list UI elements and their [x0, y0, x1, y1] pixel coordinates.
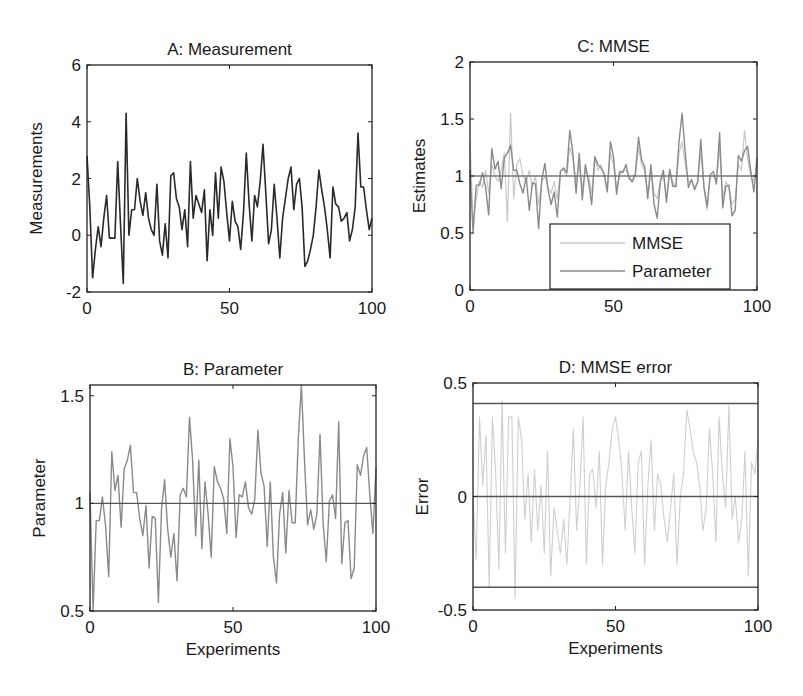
x-tick-label: 0 [465, 297, 474, 316]
x-tick-label: 100 [358, 299, 386, 318]
y-axis-label: Error [413, 477, 432, 515]
legend-label: Parameter [632, 262, 712, 281]
legend: MMSEParameter [550, 224, 730, 289]
y-tick-label: 1 [75, 494, 84, 513]
x-axis-label: Experiments [568, 639, 662, 658]
x-tick-label: 100 [744, 617, 772, 636]
y-tick-label: 1 [455, 167, 464, 186]
y-tick-label: 0 [72, 226, 81, 245]
y-tick-label: 0.5 [60, 602, 84, 621]
y-tick-label: 0.5 [443, 374, 467, 393]
x-tick-label: 0 [468, 617, 477, 636]
panel-d: D: MMSE error050100-0.500.5ExperimentsEr… [413, 358, 772, 658]
series-parameter [90, 385, 376, 611]
x-axis-label: Experiments [186, 640, 280, 659]
chart-title: D: MMSE error [559, 358, 673, 377]
figure: A: Measurement050100-20246MeasurementsB:… [0, 0, 803, 696]
x-tick-label: 0 [82, 299, 91, 318]
chart-title: C: MMSE [577, 37, 650, 56]
legend-label: MMSE [632, 234, 683, 253]
x-tick-label: 50 [604, 297, 623, 316]
x-tick-label: 100 [743, 297, 771, 316]
panel-a: A: Measurement050100-20246Measurements [27, 40, 386, 318]
series-measurement [87, 113, 372, 283]
y-tick-label: 2 [455, 53, 464, 72]
x-tick-label: 50 [224, 618, 243, 637]
x-tick-label: 50 [606, 617, 625, 636]
panel-b: B: Parameter0501000.511.5ExperimentsPara… [30, 360, 390, 659]
axes-box [87, 65, 372, 292]
y-tick-label: 1.5 [440, 110, 464, 129]
chart-title: A: Measurement [167, 40, 292, 59]
chart-title: B: Parameter [183, 360, 283, 379]
series-mmse-error [473, 401, 758, 598]
y-tick-label: 0 [455, 281, 464, 300]
y-tick-label: 0.5 [440, 224, 464, 243]
x-tick-label: 100 [362, 618, 390, 637]
y-axis-label: Measurements [27, 122, 46, 234]
y-tick-label: -2 [66, 283, 81, 302]
y-tick-label: -0.5 [438, 601, 467, 620]
y-tick-label: 2 [72, 170, 81, 189]
y-tick-label: 1.5 [60, 387, 84, 406]
x-tick-label: 50 [220, 299, 239, 318]
y-tick-label: 4 [72, 113, 81, 132]
x-tick-label: 0 [85, 618, 94, 637]
panel-c: C: MMSE05010000.511.52EstimatesMMSEParam… [410, 37, 771, 316]
y-tick-label: 0 [458, 488, 467, 507]
y-axis-label: Parameter [30, 458, 49, 538]
y-axis-label: Estimates [410, 139, 429, 214]
y-tick-label: 6 [72, 56, 81, 75]
